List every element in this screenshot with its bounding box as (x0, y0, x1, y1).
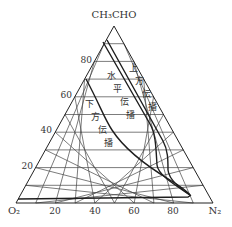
svg-text:上: 上 (129, 63, 138, 73)
region-label-horizontal: 水平伝播 (107, 70, 136, 120)
svg-text:方: 方 (135, 75, 144, 86)
left-tick-20: 20 (22, 161, 34, 171)
grid (26, 44, 203, 203)
svg-text:平: 平 (113, 84, 122, 94)
svg-text:方: 方 (91, 111, 100, 122)
bottom-tick-40: 40 (89, 206, 101, 216)
svg-text:水: 水 (107, 70, 116, 81)
svg-text:播: 播 (126, 109, 135, 120)
svg-text:播: 播 (104, 137, 113, 148)
bottom-tick-60: 60 (128, 206, 140, 216)
svg-text:伝: 伝 (98, 125, 107, 135)
svg-text:伝: 伝 (120, 97, 129, 107)
vertex-label-right: N₂ (209, 205, 222, 216)
ternary-diagram: CH₃CHO O₂ N₂ 20 40 60 80 20 40 60 80 上方伝… (0, 0, 232, 227)
bottom-tick-80: 80 (167, 206, 179, 216)
left-tick-80: 80 (81, 55, 93, 65)
left-tick-60: 60 (61, 90, 73, 100)
vertex-label-left: O₂ (8, 205, 20, 216)
svg-text:下: 下 (85, 99, 94, 109)
svg-text:伝: 伝 (142, 89, 151, 99)
svg-text:播: 播 (148, 101, 157, 112)
vertex-label-top: CH₃CHO (92, 9, 137, 20)
left-tick-40: 40 (41, 125, 53, 135)
bottom-tick-20: 20 (49, 206, 61, 216)
